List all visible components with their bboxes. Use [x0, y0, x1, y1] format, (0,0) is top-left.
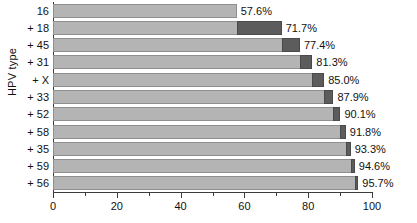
bar-row: 90.1%: [53, 107, 372, 121]
bar-segment-increment: [312, 73, 324, 87]
bar-row: 91.8%: [53, 125, 372, 139]
bar-row: 87.9%: [53, 90, 372, 104]
bar-row: 93.3%: [53, 142, 372, 156]
bar-segment-increment: [355, 176, 359, 190]
bar-value-label: 85.0%: [328, 73, 359, 87]
category-label: + X: [1, 73, 49, 87]
plot-area: 57.6%71.7%77.4%81.3%85.0%87.9%90.1%91.8%…: [53, 2, 372, 192]
bar-row: 94.6%: [53, 159, 372, 173]
category-label: + 31: [1, 55, 49, 69]
bar-row: 71.7%: [53, 21, 372, 35]
x-axis-minor-tick: [85, 192, 86, 196]
x-axis-tick-label: 100: [352, 200, 392, 212]
x-axis-tick: [117, 192, 118, 198]
bar-segment-cumulative: [53, 142, 346, 156]
bar-value-label: 93.3%: [355, 142, 386, 156]
bar-row: 81.3%: [53, 55, 372, 69]
bar-value-label: 77.4%: [304, 38, 335, 52]
category-label: + 35: [1, 142, 49, 156]
x-axis-minor-tick: [149, 192, 150, 196]
x-axis-tick-label: 40: [161, 200, 201, 212]
x-axis-tick-label: 0: [33, 200, 73, 212]
bar-segment-increment: [324, 90, 333, 104]
x-axis-minor-tick: [340, 192, 341, 196]
x-axis-tick: [53, 192, 54, 198]
bar-segment-increment: [346, 142, 351, 156]
category-label: + 56: [1, 176, 49, 190]
bar-segment-cumulative: [53, 73, 312, 87]
bar-value-label: 57.6%: [241, 4, 272, 18]
x-axis-tick-label: 60: [224, 200, 264, 212]
bar-value-label: 71.7%: [286, 21, 317, 35]
category-label: + 59: [1, 159, 49, 173]
category-label: + 45: [1, 38, 49, 52]
x-axis-tick-label: 80: [288, 200, 328, 212]
category-label: + 18: [1, 21, 49, 35]
category-label: 16: [1, 4, 49, 18]
bar-row: 77.4%: [53, 38, 372, 52]
bar-segment-cumulative: [53, 125, 340, 139]
hpv-type-cumulative-bar-chart: HPV type 57.6%71.7%77.4%81.3%85.0%87.9%9…: [0, 0, 417, 223]
x-axis-tick: [244, 192, 245, 198]
bar-value-label: 95.7%: [362, 176, 393, 190]
bar-segment-increment: [237, 21, 282, 35]
bar-row: 57.6%: [53, 4, 372, 18]
bar-segment-cumulative: [53, 38, 282, 52]
bar-segment-cumulative: [53, 55, 300, 69]
bar-value-label: 90.1%: [344, 107, 375, 121]
bar-segment-cumulative: [53, 107, 333, 121]
x-axis-minor-tick: [276, 192, 277, 196]
bar-segment-cumulative: [53, 21, 237, 35]
bar-segment-cumulative: [53, 176, 355, 190]
bar-value-label: 81.3%: [316, 55, 347, 69]
bar-segment-increment: [340, 125, 345, 139]
bar-segment-increment: [300, 55, 312, 69]
bar-row: 95.7%: [53, 176, 372, 190]
bar-segment-cumulative: [53, 90, 324, 104]
category-label: + 52: [1, 107, 49, 121]
bar-segment-cumulative: [53, 4, 237, 18]
category-label: + 33: [1, 90, 49, 104]
bar-value-label: 94.6%: [359, 159, 390, 173]
x-axis-minor-tick: [213, 192, 214, 196]
x-axis-tick: [308, 192, 309, 198]
bar-segment-cumulative: [53, 159, 351, 173]
bar-segment-increment: [333, 107, 340, 121]
bar-row: 85.0%: [53, 73, 372, 87]
bar-segment-increment: [351, 159, 355, 173]
x-axis-tick: [181, 192, 182, 198]
x-axis-tick: [372, 192, 373, 198]
bar-segment-increment: [282, 38, 300, 52]
bar-value-label: 91.8%: [350, 125, 381, 139]
bar-value-label: 87.9%: [337, 90, 368, 104]
x-axis-tick-label: 20: [97, 200, 137, 212]
category-label: + 58: [1, 125, 49, 139]
